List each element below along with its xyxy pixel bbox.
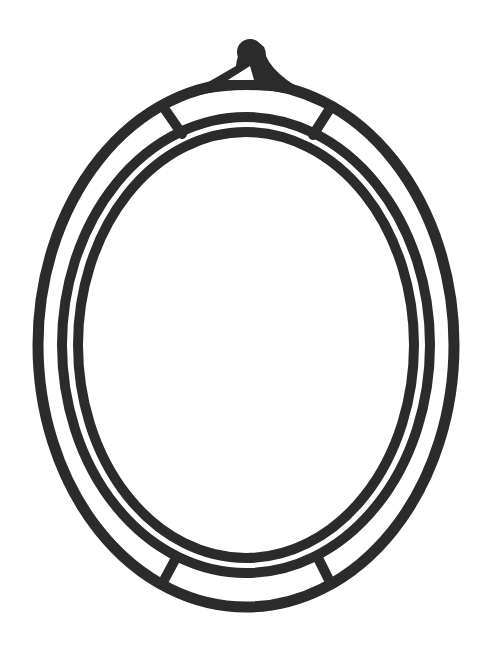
oval-frame-drawing xyxy=(0,0,493,651)
hanging-tab-knob xyxy=(237,39,263,65)
